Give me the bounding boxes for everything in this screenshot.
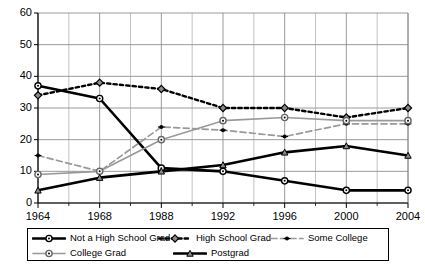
- y-axis-tick-label: 20: [2, 133, 32, 145]
- legend-point-dot: [48, 253, 50, 255]
- y-axis-tick-label: 30: [2, 101, 32, 113]
- data-point-dot: [345, 189, 347, 191]
- y-axis-tick-label: 60: [2, 6, 32, 18]
- legend-item[interactable]: Postgrad: [173, 245, 249, 260]
- x-axis-tick-label: 2004: [386, 210, 425, 222]
- legend-item[interactable]: High School Grad: [158, 230, 271, 245]
- x-axis-tick-label: 1996: [263, 210, 307, 222]
- data-point-dot: [407, 189, 409, 191]
- legend-marker-high-school-grad: [158, 231, 192, 244]
- x-axis-tick-label: 1988: [139, 210, 183, 222]
- legend-marker-some-college: [270, 231, 304, 244]
- legend-label: High School Grad: [196, 231, 271, 244]
- legend-item[interactable]: Some College: [270, 230, 368, 245]
- data-point-dot: [99, 170, 101, 172]
- x-axis-tick-label: 2000: [324, 210, 368, 222]
- y-axis-tick-label: 10: [2, 164, 32, 176]
- data-point: [96, 79, 103, 86]
- data-point-dot: [407, 120, 409, 122]
- x-axis-tick-label: 1992: [201, 210, 245, 222]
- data-point: [34, 92, 41, 99]
- y-axis-tick-label: 0: [2, 196, 32, 208]
- data-point-dot: [284, 180, 286, 182]
- legend-point: [171, 235, 178, 242]
- data-point-dot: [160, 139, 162, 141]
- x-axis-tick-label: 1968: [78, 210, 122, 222]
- legend-point-dot: [48, 238, 50, 240]
- chart-legend: Not a High School GradHigh School GradSo…: [27, 228, 389, 261]
- data-point-dot: [284, 117, 286, 119]
- y-axis-tick-label: 50: [2, 38, 32, 50]
- legend-marker-college-grad: [32, 246, 66, 259]
- legend-label: College Grad: [70, 246, 126, 259]
- legend-marker-postgrad: [173, 246, 207, 259]
- data-point-dot: [99, 98, 101, 100]
- legend-item[interactable]: Not a High School Grad: [32, 230, 170, 245]
- data-point: [219, 104, 226, 111]
- data-point: [404, 104, 411, 111]
- y-axis-tick-label: 40: [2, 69, 32, 81]
- data-point: [281, 104, 288, 111]
- data-point-dot: [222, 120, 224, 122]
- legend-label: Not a High School Grad: [70, 231, 170, 244]
- legend-item[interactable]: College Grad: [32, 245, 126, 260]
- legend-marker-not-a-high-school-grad: [32, 231, 66, 244]
- legend-label: Postgrad: [211, 246, 249, 259]
- data-point-dot: [37, 85, 39, 87]
- data-point-dot: [37, 174, 39, 176]
- legend-label: Some College: [308, 231, 368, 244]
- data-point-dot: [345, 120, 347, 122]
- data-point-dot: [222, 170, 224, 172]
- data-point: [158, 85, 165, 92]
- x-axis-tick-label: 1964: [16, 210, 60, 222]
